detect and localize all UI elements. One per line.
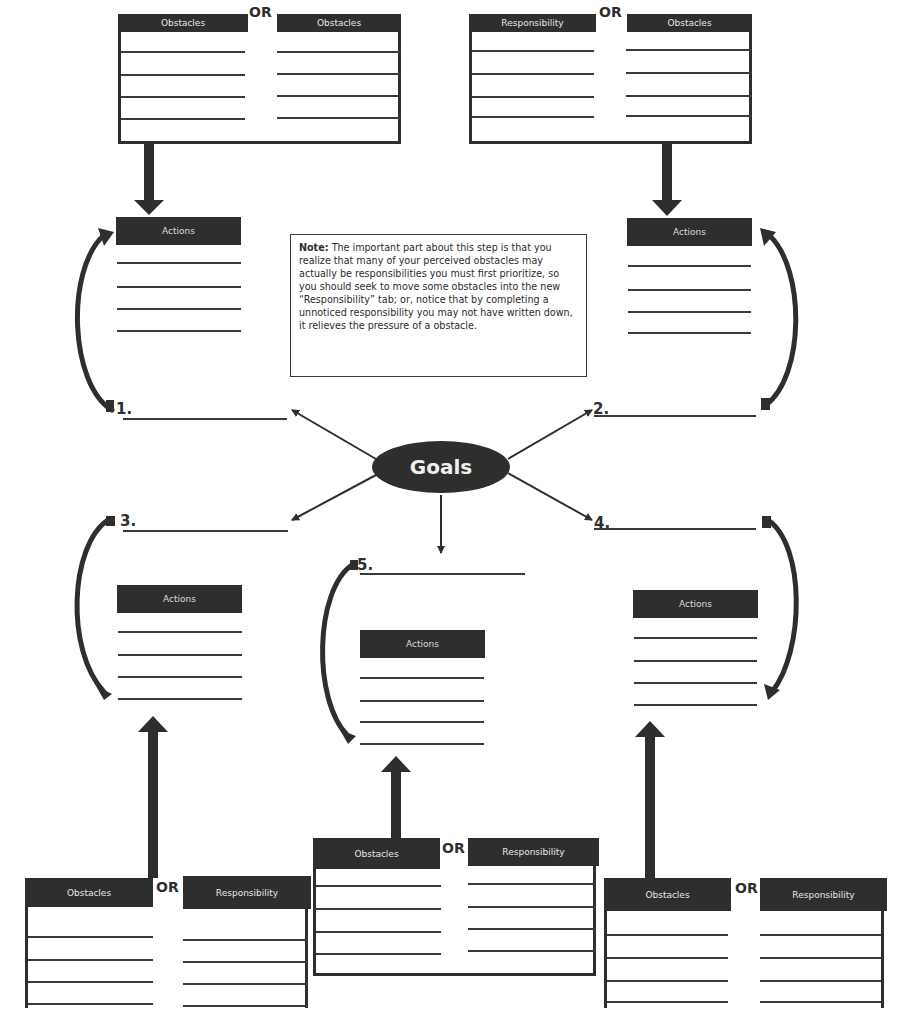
responsibility-header: Obstacles [277, 14, 401, 32]
up-arrow-icon [635, 721, 665, 878]
actions-header: Actions [360, 630, 485, 658]
goal-input-line[interactable] [123, 418, 287, 420]
action-line[interactable] [360, 743, 484, 745]
entry-line[interactable] [277, 95, 401, 97]
entry-line[interactable] [316, 885, 441, 887]
or-label: OR [735, 880, 758, 896]
curved-arrow-icon [77, 516, 115, 700]
entry-line[interactable] [607, 957, 728, 959]
entry-line[interactable] [183, 983, 308, 985]
action-line[interactable] [360, 721, 484, 723]
entry-line[interactable] [760, 1001, 881, 1003]
action-line[interactable] [634, 637, 757, 639]
curved-arrow-icon [323, 560, 358, 744]
or-label: OR [249, 4, 272, 20]
goal-number: 5. [357, 556, 373, 574]
entry-line[interactable] [121, 118, 245, 120]
obstacles-responsibility-box-bottom-left: Obstacles OR Responsibility [25, 878, 308, 1008]
entry-line[interactable] [760, 957, 881, 959]
goal-number: 3. [120, 512, 136, 530]
up-arrow-icon [138, 716, 168, 878]
obstacles-header: Obstacles [118, 14, 248, 32]
entry-line[interactable] [468, 928, 596, 930]
actions-header: Actions [633, 590, 758, 618]
action-line[interactable] [634, 660, 757, 662]
entry-line[interactable] [468, 883, 596, 885]
entry-line[interactable] [607, 934, 728, 936]
entry-line[interactable] [626, 95, 752, 97]
entry-line[interactable] [472, 116, 594, 118]
action-line[interactable] [118, 676, 242, 678]
entry-line[interactable] [316, 931, 441, 933]
entry-line[interactable] [183, 961, 308, 963]
goal-input-line[interactable] [123, 530, 288, 532]
entry-line[interactable] [626, 49, 752, 51]
action-line[interactable] [117, 286, 241, 288]
entry-line[interactable] [183, 939, 308, 941]
goal-input-line[interactable] [594, 415, 756, 417]
action-line[interactable] [118, 698, 242, 700]
entry-line[interactable] [607, 980, 728, 982]
action-line[interactable] [360, 677, 484, 679]
goal-input-line[interactable] [594, 528, 756, 530]
goal-arrow-3 [292, 475, 376, 520]
action-line[interactable] [628, 332, 751, 334]
entry-line[interactable] [277, 51, 401, 53]
entry-line[interactable] [760, 934, 881, 936]
goal-arrow-1 [292, 410, 376, 459]
obstacles-header: Obstacles [25, 878, 153, 907]
entry-line[interactable] [183, 1005, 308, 1007]
obstacles-responsibility-box-top-left: Obstacles OR Obstacles [118, 14, 401, 144]
action-line[interactable] [634, 682, 757, 684]
goal-number: 1. [116, 400, 132, 418]
obstacles-header: Obstacles [313, 838, 440, 869]
or-label: OR [442, 840, 465, 856]
entry-line[interactable] [468, 950, 596, 952]
entry-line[interactable] [626, 115, 752, 117]
entry-line[interactable] [28, 981, 153, 983]
actions-header: Actions [116, 217, 241, 245]
entry-line[interactable] [28, 936, 153, 938]
entry-line[interactable] [607, 1001, 728, 1003]
entry-line[interactable] [472, 50, 594, 52]
entry-line[interactable] [277, 73, 401, 75]
entry-line[interactable] [28, 1003, 153, 1005]
entry-line[interactable] [28, 959, 153, 961]
entry-line[interactable] [121, 74, 245, 76]
down-arrow-icon [652, 144, 682, 216]
action-line[interactable] [628, 289, 751, 291]
action-line[interactable] [117, 330, 241, 332]
action-line[interactable] [118, 654, 242, 656]
or-label: OR [599, 4, 622, 20]
goal-arrow-4 [508, 473, 592, 520]
responsibility-header: Responsibility [760, 878, 887, 911]
entry-line[interactable] [316, 908, 441, 910]
action-line[interactable] [628, 265, 751, 267]
entry-line[interactable] [472, 73, 594, 75]
entry-line[interactable] [277, 117, 401, 119]
curved-arrow-icon [760, 228, 796, 410]
responsibility-header: Responsibility [468, 838, 599, 866]
action-line[interactable] [117, 308, 241, 310]
responsibility-header: Responsibility [469, 14, 596, 32]
entry-line[interactable] [472, 96, 594, 98]
goal-input-line[interactable] [360, 573, 525, 575]
entry-line[interactable] [316, 953, 441, 955]
entry-line[interactable] [760, 980, 881, 982]
entry-line[interactable] [626, 72, 752, 74]
action-line[interactable] [118, 631, 242, 633]
obstacles-responsibility-box-bottom-right: Obstacles OR Responsibility [604, 878, 884, 1008]
responsibility-header: Responsibility [183, 876, 311, 909]
obstacles-responsibility-box-bottom-center: Obstacles OR Responsibility [313, 838, 596, 976]
entry-line[interactable] [468, 906, 596, 908]
actions-header: Actions [627, 218, 752, 246]
action-line[interactable] [628, 311, 751, 313]
action-line[interactable] [634, 704, 757, 706]
actions-header: Actions [117, 585, 242, 613]
entry-line[interactable] [121, 96, 245, 98]
curved-arrow-icon [77, 228, 114, 412]
up-arrow-icon [381, 756, 411, 838]
action-line[interactable] [360, 700, 484, 702]
action-line[interactable] [117, 262, 241, 264]
entry-line[interactable] [121, 51, 245, 53]
